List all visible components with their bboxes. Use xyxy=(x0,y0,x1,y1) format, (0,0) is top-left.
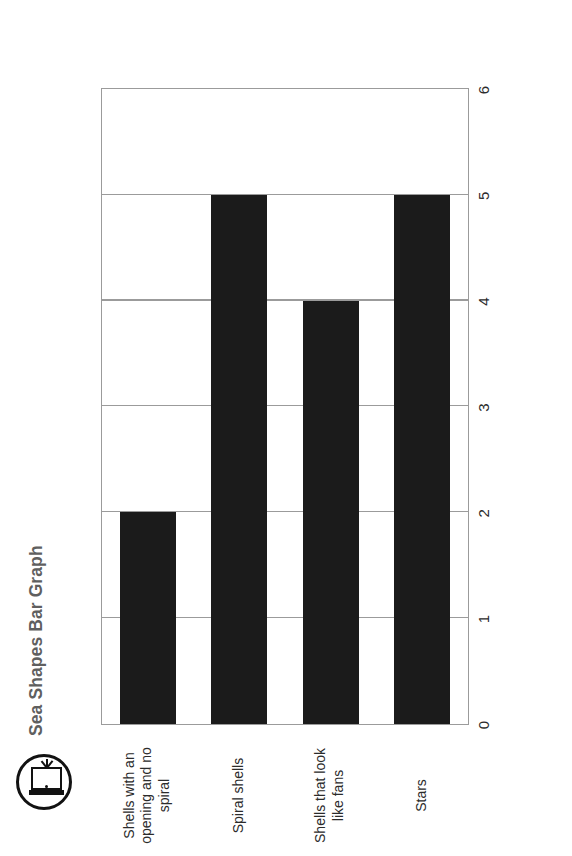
bar xyxy=(211,195,267,724)
bar-group xyxy=(377,195,469,724)
category-label-line: spiral xyxy=(156,779,174,812)
bar xyxy=(120,512,176,724)
value-axis-tick-label: 1 xyxy=(475,599,492,639)
value-axis-tick-label: 3 xyxy=(475,388,492,428)
plot-area xyxy=(101,88,469,725)
bars-layer xyxy=(102,89,468,724)
category-axis-labels: StarsShells that looklike fansSpiral she… xyxy=(101,725,469,856)
page-title: Sea Shapes Bar Graph xyxy=(26,545,47,736)
category-label-line: Shells that look xyxy=(312,748,330,843)
category-label-line: opening and no xyxy=(138,747,156,844)
value-axis-tick-labels: 0123456 xyxy=(475,88,505,725)
bar xyxy=(394,195,450,724)
value-axis-tick-label: 4 xyxy=(475,282,492,322)
value-axis-tick-label: 6 xyxy=(475,70,492,110)
category-label-line: Stars xyxy=(413,779,431,812)
bar-group xyxy=(194,195,286,724)
door-knob-shape xyxy=(45,785,48,788)
door-exit-icon xyxy=(16,754,72,810)
door-panel-shape xyxy=(29,790,64,795)
rotated-chart-canvas: Sea Shapes Bar Graph 0123456 StarsShells… xyxy=(0,0,572,856)
category-axis-tick-label: Stars xyxy=(376,735,468,856)
category-label-line: like fans xyxy=(330,770,348,821)
bar-group xyxy=(102,512,194,724)
bar-group xyxy=(285,301,377,724)
chart-header: Sea Shapes Bar Graph xyxy=(0,0,112,856)
bar xyxy=(303,301,359,724)
value-axis-tick-label: 0 xyxy=(475,705,492,745)
category-axis-tick-label: Shells that looklike fans xyxy=(284,735,376,856)
exit-arrow-icon xyxy=(39,755,55,769)
category-axis-tick-label: Spiral shells xyxy=(193,735,285,856)
value-axis-tick-label: 5 xyxy=(475,176,492,216)
value-axis-tick-label: 2 xyxy=(475,493,492,533)
category-label-line: Shells with an xyxy=(121,752,139,838)
category-axis-tick-label: Shells with anopening and nospiral xyxy=(101,735,193,856)
category-label-line: Spiral shells xyxy=(230,758,248,833)
